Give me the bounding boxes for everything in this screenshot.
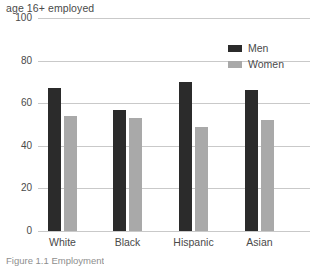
- bar-men-white: [48, 88, 61, 231]
- x-axis-label-hispanic: Hispanic: [173, 236, 213, 248]
- x-axis-label-black: Black: [115, 236, 141, 248]
- y-axis-tick-label: 60: [21, 98, 32, 108]
- bar-women-hispanic: [195, 127, 208, 231]
- legend-swatch-women: [228, 61, 242, 68]
- bar-men-black: [113, 110, 126, 231]
- bar-women-white: [64, 116, 77, 231]
- y-axis-tick-label: 0: [26, 226, 32, 236]
- legend-swatch-men: [228, 45, 242, 52]
- legend-item-men: Men: [228, 42, 284, 55]
- bar-men-hispanic: [179, 82, 192, 231]
- y-axis-tick-label: 40: [21, 141, 32, 151]
- x-axis-label-asian: Asian: [246, 236, 272, 248]
- legend-label-men: Men: [248, 43, 268, 54]
- figure-caption: Figure 1.1 Employment: [6, 255, 104, 266]
- bar-group-hispanic: [179, 18, 208, 231]
- bar-women-asian: [261, 120, 274, 231]
- y-axis-tick-label: 100: [15, 13, 32, 23]
- bar-women-black: [129, 118, 142, 231]
- bar-group-black: [113, 18, 142, 231]
- bar-men-asian: [245, 90, 258, 231]
- gridline: 0: [38, 231, 310, 232]
- y-axis-tick-label: 80: [21, 56, 32, 66]
- bar-group-white: [48, 18, 77, 231]
- legend-label-women: Women: [248, 59, 284, 70]
- y-axis-tick-label: 20: [21, 183, 32, 193]
- legend-item-women: Women: [228, 58, 284, 71]
- x-axis-label-white: White: [49, 236, 76, 248]
- chart-legend: MenWomen: [228, 42, 284, 74]
